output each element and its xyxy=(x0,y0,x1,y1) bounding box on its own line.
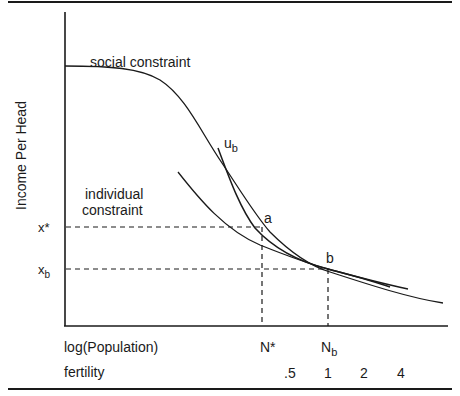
point-a-label: a xyxy=(264,210,272,226)
x-star-tick: x* xyxy=(38,220,50,235)
fertility-tick-0: .5 xyxy=(284,365,296,381)
individual-constraint-curve xyxy=(178,172,408,289)
x-axis-label-population: log(Population) xyxy=(64,339,158,355)
fertility-tick-3: 4 xyxy=(397,365,405,381)
fertility-tick-2: 2 xyxy=(360,365,368,381)
point-b-label: b xyxy=(326,250,334,266)
x-b-tick: xb xyxy=(38,262,51,280)
utility-label: ub xyxy=(224,135,238,154)
utility-curve-ub xyxy=(218,148,390,287)
n-star-tick: N* xyxy=(260,339,276,355)
fertility-tick-1: 1 xyxy=(324,365,332,381)
constraint-label: constraint xyxy=(82,202,143,218)
social-constraint-curve xyxy=(65,66,443,303)
social-constraint-label: social constraint xyxy=(90,54,190,70)
x-axis-label-fertility: fertility xyxy=(64,364,104,380)
diagram-canvas: social constraint individual constraint … xyxy=(0,0,460,396)
n-b-tick: Nb xyxy=(321,339,337,358)
individual-label: individual xyxy=(85,186,143,202)
y-axis-label: Income Per Head xyxy=(13,101,29,210)
